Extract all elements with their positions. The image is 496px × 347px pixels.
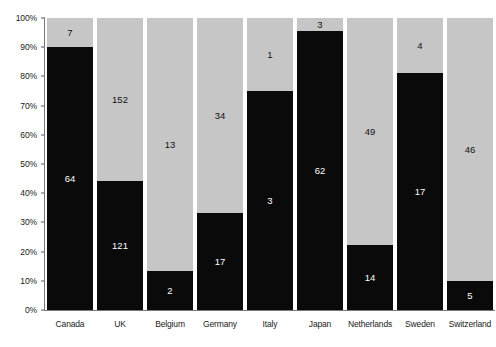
bar-segment-value-label: 7 — [67, 28, 72, 38]
x-axis-line — [44, 310, 495, 311]
bar-segment-grey[interactable]: 49 — [347, 18, 393, 245]
bar-segment-grey[interactable]: 152 — [97, 18, 143, 181]
bar-segment-grey[interactable]: 13 — [147, 18, 193, 271]
bar-segment-value-label: 14 — [365, 273, 376, 283]
bar-segment-value-label: 17 — [415, 187, 426, 197]
bar-segment-value-label: 46 — [465, 145, 476, 155]
x-axis-category-label: Belgium — [145, 314, 195, 336]
bar-segment-black[interactable]: 14 — [347, 245, 393, 310]
bar-segment-value-label: 34 — [215, 111, 226, 121]
bar-segment-value-label: 121 — [112, 241, 128, 251]
bar-column[interactable]: 13 — [245, 18, 295, 310]
y-axis-tick-label: 20% — [20, 247, 37, 257]
y-axis-tick-label: 30% — [20, 217, 37, 227]
y-axis-tick-label: 80% — [20, 71, 37, 81]
bar-segment-black[interactable]: 17 — [397, 73, 443, 310]
bar-segment-value-label: 4 — [417, 41, 422, 51]
y-axis-tick-label: 50% — [20, 159, 37, 169]
bar-segment-grey[interactable]: 3 — [297, 18, 343, 31]
y-axis-tick-label: 0% — [25, 305, 37, 315]
plot-area: 7641521211323417133624914417465 — [45, 18, 495, 310]
bar-segment-value-label: 1 — [267, 50, 272, 60]
bar-segment-value-label: 5 — [467, 291, 472, 301]
bar-segment-value-label: 62 — [315, 166, 326, 176]
x-axis-category-label: Germany — [195, 314, 245, 336]
y-axis-tick-label: 90% — [20, 42, 37, 52]
x-axis-category-label: Netherlands — [345, 314, 395, 336]
bar-column[interactable]: 764 — [45, 18, 95, 310]
bar-segment-black[interactable]: 17 — [197, 213, 243, 310]
bar-segment-value-label: 152 — [112, 95, 128, 105]
y-axis: 0%10%20%30%40%50%60%70%80%90%100% — [0, 0, 45, 347]
bar-segment-value-label: 17 — [215, 257, 226, 267]
bar-column[interactable]: 152121 — [95, 18, 145, 310]
bar-column[interactable]: 362 — [295, 18, 345, 310]
bar-segment-grey[interactable]: 34 — [197, 18, 243, 213]
stacked-bar-chart: 0%10%20%30%40%50%60%70%80%90%100% 764152… — [0, 0, 496, 347]
bar-segment-black[interactable]: 3 — [247, 91, 293, 310]
x-axis-category-label: UK — [95, 314, 145, 336]
y-axis-tick-label: 40% — [20, 188, 37, 198]
bar-column[interactable]: 4914 — [345, 18, 395, 310]
x-axis-category-label: Japan — [295, 314, 345, 336]
bar-segment-black[interactable]: 121 — [97, 181, 143, 310]
bar-segment-grey[interactable]: 7 — [47, 18, 93, 47]
x-axis-category-label: Switzerland — [445, 314, 495, 336]
bar-segment-grey[interactable]: 1 — [247, 18, 293, 91]
bar-segment-grey[interactable]: 46 — [447, 18, 493, 281]
y-axis-tick-label: 10% — [20, 276, 37, 286]
bar-segment-black[interactable]: 5 — [447, 281, 493, 310]
y-axis-tick-label: 70% — [20, 101, 37, 111]
bar-segment-value-label: 3 — [317, 20, 322, 30]
bar-column[interactable]: 465 — [445, 18, 495, 310]
bar-segment-black[interactable]: 62 — [297, 31, 343, 310]
bar-column[interactable]: 417 — [395, 18, 445, 310]
bar-segment-value-label: 64 — [65, 174, 76, 184]
bar-segment-value-label: 49 — [365, 127, 376, 137]
y-axis-tick-label: 100% — [16, 13, 37, 23]
bar-segment-grey[interactable]: 4 — [397, 18, 443, 73]
bar-segment-black[interactable]: 2 — [147, 271, 193, 310]
x-axis: CanadaUKBelgiumGermanyItalyJapanNetherla… — [45, 314, 495, 336]
bar-segment-black[interactable]: 64 — [47, 47, 93, 310]
bar-segment-value-label: 3 — [267, 196, 272, 206]
bar-segment-value-label: 13 — [165, 140, 176, 150]
bar-column[interactable]: 132 — [145, 18, 195, 310]
x-axis-category-label: Italy — [245, 314, 295, 336]
bar-column[interactable]: 3417 — [195, 18, 245, 310]
x-axis-category-label: Sweden — [395, 314, 445, 336]
y-axis-tick-label: 60% — [20, 130, 37, 140]
x-axis-category-label: Canada — [45, 314, 95, 336]
bar-segment-value-label: 2 — [167, 286, 172, 296]
